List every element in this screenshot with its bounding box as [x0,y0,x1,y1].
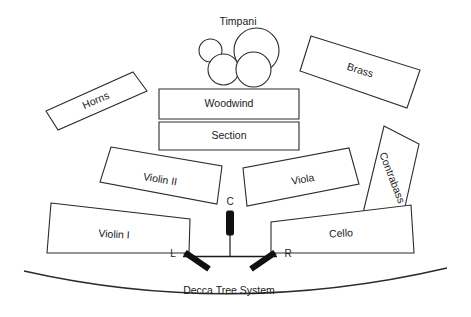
diagram-canvas: Timpani Woodwind Section Horns Brass Con… [0,0,471,317]
cello-label: Cello [329,226,354,239]
timpani-label: Timpani [220,15,257,27]
right-mic-capsule [251,253,275,270]
timpani-group: Timpani [199,15,279,87]
diagram-title: Decca Tree System [183,284,275,296]
horns-section: Horns [46,72,147,130]
section-label: Section [211,129,246,141]
violin-1-label: Violin I [98,227,130,241]
timpani-drum-medium-right [236,52,271,87]
viola-section: Viola [243,148,359,206]
left-mic-capsule [185,253,209,270]
left-mic-label: L [170,248,176,259]
center-mic-label: C [226,196,233,207]
orchestra-seating-diagram: Timpani Woodwind Section Horns Brass Con… [0,0,471,317]
timpani-drum-medium-left [208,54,239,85]
section-section: Section [159,122,299,150]
woodwind-label: Woodwind [205,97,254,109]
center-mic-capsule [227,211,234,235]
stage-front-group: Decca Tree System [24,268,447,296]
brass-section: Brass [300,36,420,108]
violin-2-section: Violin II [100,147,222,204]
woodwind-section: Woodwind [159,89,299,119]
cello-section: Cello [271,205,414,253]
violin-1-section: Violin I [47,203,190,253]
right-mic-label: R [284,248,291,259]
